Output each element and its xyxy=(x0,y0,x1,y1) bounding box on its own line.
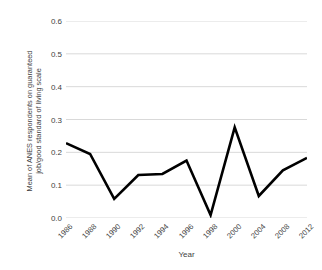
x-tick-label-1988: 1988 xyxy=(75,222,98,245)
data-series-line xyxy=(66,127,307,215)
chart-canvas xyxy=(66,21,307,218)
x-tick-label-1986: 1986 xyxy=(51,222,74,245)
y-tick-label-0.6: 0.6 xyxy=(40,17,62,26)
x-tick-label-1996: 1996 xyxy=(172,222,195,245)
x-tick-label-2000: 2000 xyxy=(220,222,243,245)
x-tick-label-1992: 1992 xyxy=(123,222,146,245)
x-tick-label-2008: 2008 xyxy=(268,222,291,245)
y-tick-label-0.0: 0.0 xyxy=(40,214,62,223)
series-polyline xyxy=(66,127,307,215)
x-axis-title: Year xyxy=(66,250,307,259)
line-chart-figure: Mean of ANES respondents on guaranteed j… xyxy=(0,0,322,270)
y-tick-label-0.2: 0.2 xyxy=(40,148,62,157)
y-axis-tick-labels: 0.00.10.20.30.40.50.6 xyxy=(38,21,62,218)
x-tick-label-1990: 1990 xyxy=(99,222,122,245)
y-tick-label-0.4: 0.4 xyxy=(40,82,62,91)
y-tick-label-0.3: 0.3 xyxy=(40,115,62,124)
x-tick-label-1998: 1998 xyxy=(196,222,219,245)
gridlines xyxy=(66,21,307,218)
x-tick-label-1994: 1994 xyxy=(147,222,170,245)
x-tick-label-2004: 2004 xyxy=(244,222,267,245)
plot-area xyxy=(66,21,307,218)
x-axis-tick-labels: 1986198819901992199419961998200020042008… xyxy=(66,219,307,253)
y-tick-label-0.5: 0.5 xyxy=(40,49,62,58)
y-axis-title-line-1: Mean of ANES respondents on guaranteed xyxy=(25,51,34,192)
x-tick-label-2012: 2012 xyxy=(292,222,315,245)
y-tick-label-0.1: 0.1 xyxy=(40,181,62,190)
